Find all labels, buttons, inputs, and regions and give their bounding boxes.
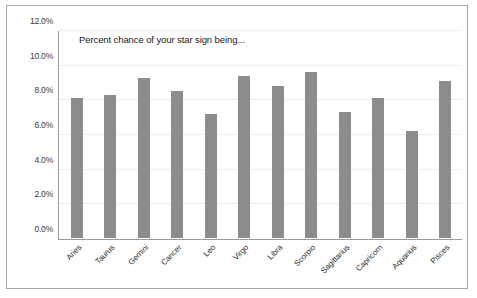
x-axis-tick-label: Sagittarius [319,243,351,275]
bar-slot: Sagittarius [328,31,361,238]
x-axis-tick-label: Pisces [429,243,452,266]
plot-area: 0.0%2.0%4.0%6.0%8.0%10.0%12.0% AriesTaur… [58,31,462,240]
y-axis-tick-label: 12.0% [30,16,53,26]
bar-virgo[interactable] [238,76,250,238]
bar-slot: Libra [261,31,294,238]
y-axis-tick-label: 8.0% [34,85,53,95]
x-axis-tick-label: Libra [266,243,285,262]
x-axis-tick-label: Taurus [94,243,117,266]
bar-slot: Pisces [429,31,462,238]
bar-sagittarius[interactable] [339,112,351,238]
bar-slot: Leo [194,31,227,238]
y-axis-tick-label: 10.0% [30,51,53,61]
bar-slot: Gemini [127,31,160,238]
bar-slot: Aries [60,31,93,238]
bar-series: AriesTaurusGeminiCancerLeoVirgoLibraScor… [60,31,462,238]
bar-aquarius[interactable] [406,131,418,238]
bar-slot: Capricorn [362,31,395,238]
bar-slot: Aquarius [395,31,428,238]
bar-slot: Virgo [228,31,261,238]
bar-slot: Cancer [161,31,194,238]
bar-taurus[interactable] [104,95,116,238]
bar-cancer[interactable] [171,91,183,238]
x-axis-tick-label: Capricorn [354,243,384,273]
x-axis-tick-label: Leo [201,243,217,259]
x-axis-tick-label: Aries [64,243,83,262]
chart-frame: Percent chance of your star sign being..… [6,5,468,289]
bar-slot: Scorpio [295,31,328,238]
y-axis-tick-label: 2.0% [34,189,53,199]
y-axis-tick-label: 0.0% [34,224,53,234]
x-axis-tick-label: Cancer [159,243,183,267]
x-axis-tick-label: Gemini [126,243,150,267]
x-axis-tick-label: Scorpio [293,243,318,268]
x-axis-tick-label: Virgo [231,243,250,262]
x-axis-tick-label: Aquarius [390,243,418,271]
bar-scorpio[interactable] [305,72,317,238]
bar-capricorn[interactable] [372,98,384,238]
bar-gemini[interactable] [138,78,150,238]
bar-slot: Taurus [93,31,126,238]
bar-aries[interactable] [71,98,83,238]
y-axis-tick-label: 6.0% [34,120,53,130]
bar-pisces[interactable] [439,81,451,238]
bar-leo[interactable] [205,114,217,238]
y-axis-tick-label: 4.0% [34,155,53,165]
bar-libra[interactable] [272,86,284,238]
